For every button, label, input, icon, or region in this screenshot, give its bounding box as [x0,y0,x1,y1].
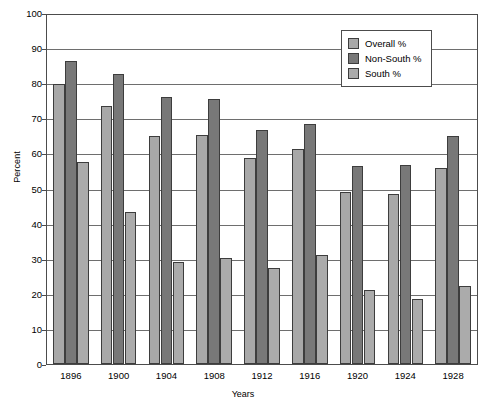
y-axis-tick-label: 0 [2,360,42,370]
x-axis-tick-label: 1908 [190,370,238,382]
legend-label: South % [365,68,401,79]
bar-group [101,15,137,364]
bar [435,168,447,364]
bar-group [196,15,232,364]
x-axis-tick-label: 1912 [238,370,286,382]
bar [256,130,268,364]
bar [316,255,328,365]
bar [220,258,232,364]
legend-label: Non-South % [365,53,422,64]
bar [196,135,208,364]
bar [352,166,364,364]
x-axis-title: Years [0,389,486,399]
bar-group [53,15,89,364]
legend-item: Overall % [348,36,422,51]
bar [340,192,352,364]
bar [173,262,185,364]
legend-item: Non-South % [348,51,422,66]
bar [304,124,316,364]
bar [161,97,173,364]
x-axis-tick-label: 1916 [286,370,334,382]
bar [292,149,304,364]
bar [65,61,77,364]
bar-group [292,15,328,364]
bar [125,212,137,364]
x-axis-tick-label: 1924 [381,370,429,382]
y-axis-tick-label: 60 [2,149,42,159]
bar [364,290,376,364]
bar [244,158,256,364]
y-axis-tick-label: 10 [2,325,42,335]
y-axis-tick-label: 90 [2,44,42,54]
legend-label: Overall % [365,38,406,49]
bar-chart: Percent 0102030405060708090100 189619001… [0,0,486,410]
bar [447,136,459,365]
x-axis-tick-labels: 189619001904190819121916192019241928 [47,370,477,386]
legend-swatch-icon [348,53,359,64]
legend-item: South % [348,66,422,81]
bar-group [244,15,280,364]
bar [400,165,412,364]
y-axis-tick-label: 40 [2,220,42,230]
y-axis-tick-label: 70 [2,114,42,124]
y-axis-tick-label: 50 [2,185,42,195]
bar [459,286,471,364]
y-axis-tick-labels: 0102030405060708090100 [0,0,42,410]
chart-legend: Overall %Non-South %South % [341,30,432,87]
x-axis-tick-label: 1928 [429,370,477,382]
y-axis-tick-label: 100 [2,9,42,19]
y-axis-tick-mark [42,365,46,366]
x-axis-tick-label: 1896 [47,370,95,382]
bar [113,74,125,364]
bar-group [435,15,471,364]
bar [268,268,280,364]
bar [101,106,113,364]
x-axis-tick-label: 1904 [143,370,191,382]
legend-swatch-icon [348,38,359,49]
x-axis-tick-label: 1900 [95,370,143,382]
bar [208,99,220,364]
bar [77,162,89,364]
y-axis-tick-label: 80 [2,79,42,89]
bar [412,299,424,364]
bar [53,84,65,364]
x-axis-tick-label: 1920 [334,370,382,382]
legend-swatch-icon [348,68,359,79]
y-axis-tick-label: 20 [2,290,42,300]
bar [149,136,161,364]
bar [388,194,400,364]
y-axis-tick-label: 30 [2,255,42,265]
bar-group [149,15,185,364]
